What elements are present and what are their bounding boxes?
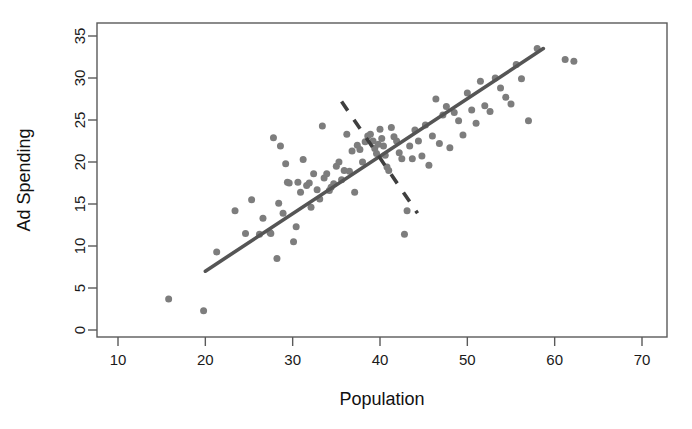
chart-figure: 10203040506070 05101520253035 Population… <box>0 0 692 429</box>
data-point <box>367 131 374 138</box>
y-tick-label: 0 <box>71 326 88 334</box>
data-point <box>562 56 569 63</box>
data-point <box>259 215 266 222</box>
data-point <box>242 230 249 237</box>
data-point <box>280 210 287 217</box>
data-point <box>425 162 432 169</box>
data-point <box>282 160 289 167</box>
x-tick-label: 70 <box>634 351 651 368</box>
data-point <box>468 106 475 113</box>
data-point <box>508 101 515 108</box>
y-tick-label: 35 <box>71 28 88 45</box>
x-tick-label: 50 <box>459 351 476 368</box>
data-point <box>248 196 255 203</box>
data-point <box>351 189 358 196</box>
data-point <box>415 138 422 145</box>
data-point <box>293 223 300 230</box>
data-point <box>473 120 480 127</box>
data-point <box>270 134 277 141</box>
data-point <box>290 238 297 245</box>
data-point <box>356 146 363 153</box>
data-point <box>380 143 387 150</box>
data-point <box>343 131 350 138</box>
data-point <box>398 155 405 162</box>
data-point <box>294 179 301 186</box>
data-point <box>297 189 304 196</box>
data-point <box>481 102 488 109</box>
y-tick-label: 5 <box>71 284 88 292</box>
y-tick-label: 30 <box>71 70 88 87</box>
data-point <box>335 159 342 166</box>
x-tick-label: 60 <box>546 351 563 368</box>
data-point <box>286 180 293 187</box>
y-tick-label: 10 <box>71 238 88 255</box>
data-point <box>570 58 577 65</box>
data-point <box>497 85 504 92</box>
data-point <box>388 124 395 131</box>
data-point <box>459 132 466 139</box>
data-point <box>446 144 453 151</box>
data-point <box>319 122 326 129</box>
y-tick-label: 25 <box>71 112 88 129</box>
data-point <box>401 231 408 238</box>
data-point <box>455 117 462 124</box>
x-tick-label: 40 <box>372 351 389 368</box>
data-point <box>213 248 220 255</box>
data-point <box>477 78 484 85</box>
data-point <box>432 96 439 103</box>
scatter-plot-svg: 10203040506070 05101520253035 Population… <box>0 0 692 429</box>
data-point <box>429 132 436 139</box>
data-point <box>232 207 239 214</box>
data-point <box>502 94 509 101</box>
data-point <box>409 155 416 162</box>
x-tick-label: 10 <box>110 351 127 368</box>
data-point <box>518 75 525 82</box>
data-point <box>385 167 392 174</box>
data-point <box>525 117 532 124</box>
data-point <box>306 180 313 187</box>
x-tick-label: 20 <box>197 351 214 368</box>
x-tick-label: 30 <box>284 351 301 368</box>
data-point <box>310 170 317 177</box>
x-axis-title: Population <box>339 389 424 409</box>
y-tick-label: 15 <box>71 196 88 213</box>
data-point <box>300 156 307 163</box>
y-axis-title: Ad Spending <box>14 128 34 231</box>
plot-background <box>0 0 692 429</box>
data-point <box>275 200 282 207</box>
data-point <box>378 135 385 142</box>
data-point <box>314 186 321 193</box>
data-point <box>273 255 280 262</box>
data-point <box>377 126 384 133</box>
data-point <box>418 153 425 160</box>
data-point <box>406 143 413 150</box>
y-tick-label: 20 <box>71 154 88 171</box>
data-point <box>165 295 172 302</box>
data-point <box>349 148 356 155</box>
data-point <box>436 140 443 147</box>
data-point <box>200 307 207 314</box>
data-point <box>404 207 411 214</box>
data-point <box>323 170 330 177</box>
data-point <box>277 143 284 150</box>
data-point <box>487 108 494 115</box>
